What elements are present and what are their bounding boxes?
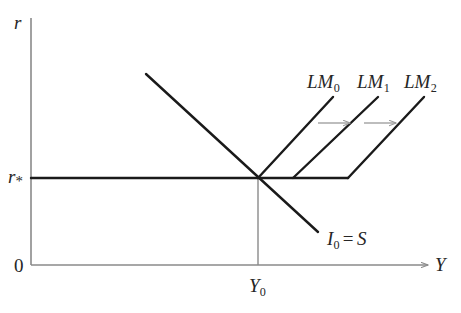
lm-curves-group: [31, 97, 424, 178]
lm-curve-2: [348, 97, 424, 178]
equilibrium-rate-base: r: [8, 166, 15, 187]
is-lm-diagram: r r* 0 Y0 Y I0=S LM0 LM1 LM2: [0, 0, 461, 313]
lm-curve-2-label: LM2: [404, 72, 436, 91]
equilibrium-output-label: Y0: [249, 276, 266, 295]
equilibrium-output-subscript: 0: [260, 285, 266, 299]
is-curve-label-equals: =: [339, 228, 357, 249]
axes-group: [31, 18, 428, 265]
is-curve-label-subscript: 0: [334, 238, 340, 252]
lm-curve-1-label: LM1: [357, 72, 389, 91]
equilibrium-rate-label: r*: [8, 167, 23, 186]
lm-curve-1: [293, 97, 378, 178]
equilibrium-rate-star: *: [16, 173, 23, 189]
lm-curve-1-label-base: LM: [357, 71, 383, 92]
is-curve: [146, 74, 318, 232]
lm-curve-2-label-subscript: 2: [431, 81, 437, 95]
lm-curve-0-label-base: LM: [307, 71, 333, 92]
is-curve-label: I0=S: [327, 229, 366, 248]
is-curve-label-rhs: S: [357, 228, 367, 249]
lm-curve-0-label-subscript: 0: [334, 81, 340, 95]
x-axis-label: Y: [435, 255, 446, 274]
lm-curve-0: [258, 97, 333, 178]
lm-curve-2-label-base: LM: [404, 71, 430, 92]
y-axis-label: r: [14, 13, 21, 32]
lm-curve-1-label-subscript: 1: [384, 81, 390, 95]
equilibrium-output-base: Y: [249, 275, 260, 296]
lm-curve-0-label: LM0: [307, 72, 339, 91]
is-curve-label-lhs: I: [327, 228, 333, 249]
origin-label: 0: [14, 256, 24, 275]
diagram-canvas: [0, 0, 461, 313]
